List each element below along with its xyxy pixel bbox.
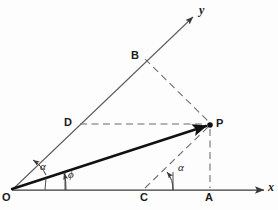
point-label-D: D bbox=[64, 116, 72, 128]
point-label-B: B bbox=[131, 49, 139, 61]
angle-arc-alpha-at-C bbox=[167, 172, 173, 190]
point-label-O: O bbox=[2, 191, 11, 203]
axis-label-x: x bbox=[268, 180, 274, 195]
segment-OP-vector bbox=[12, 126, 206, 189]
point-label-C: C bbox=[140, 191, 148, 203]
segment-BP bbox=[145, 59, 209, 122]
angle-tick-alpha-at-O bbox=[45, 178, 46, 190]
angle-label-alpha-at-C: α bbox=[178, 161, 184, 173]
angle-label-phi-at-O: ϕ bbox=[68, 168, 74, 180]
figure-canvas bbox=[0, 0, 278, 210]
geometry-figure: O P A B C D x y α ϕ α bbox=[0, 0, 278, 210]
point-marker-P bbox=[207, 122, 213, 128]
angle-label-alpha-at-O: α bbox=[40, 160, 46, 172]
point-label-P: P bbox=[216, 117, 223, 129]
axis-label-y: y bbox=[199, 3, 204, 18]
figure-caption bbox=[0, 203, 278, 210]
point-label-A: A bbox=[205, 191, 213, 203]
